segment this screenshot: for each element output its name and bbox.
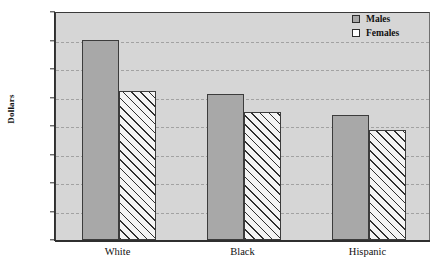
legend-label-males: Males bbox=[366, 14, 390, 24]
bar-black-males bbox=[207, 94, 244, 240]
bar-black-females bbox=[244, 112, 281, 240]
y-axis-tick-mark bbox=[50, 211, 55, 212]
bar-white-females bbox=[119, 91, 156, 240]
legend-label-females: Females bbox=[366, 28, 399, 38]
y-axis-tick-mark bbox=[50, 182, 55, 183]
plot-area bbox=[55, 12, 430, 240]
x-axis-line bbox=[55, 240, 430, 242]
legend: Males Females bbox=[352, 14, 399, 38]
y-axis-tick-mark bbox=[50, 125, 55, 126]
bar-chart: Dollars 0100200300400500600700800 WhiteB… bbox=[0, 0, 441, 268]
y-axis-tick-mark bbox=[50, 97, 55, 98]
y-axis-tick-mark bbox=[50, 11, 55, 12]
bar-hispanic-females bbox=[369, 130, 406, 240]
bar-hispanic-males bbox=[332, 115, 369, 240]
bar-white-males bbox=[82, 40, 119, 240]
y-axis-tick-mark bbox=[50, 40, 55, 41]
legend-item-females[interactable]: Females bbox=[352, 28, 399, 38]
y-axis-title: Dollars bbox=[6, 77, 16, 141]
legend-swatch-females-icon bbox=[352, 29, 360, 37]
chart-title-clipped bbox=[0, 0, 441, 6]
y-axis-tick-mark bbox=[50, 239, 55, 240]
x-axis-label-white: White bbox=[105, 246, 131, 257]
x-axis-label-black: Black bbox=[230, 246, 255, 257]
y-axis-tick-mark bbox=[50, 68, 55, 69]
x-axis-label-hispanic: Hispanic bbox=[349, 246, 386, 257]
legend-item-males[interactable]: Males bbox=[352, 14, 399, 24]
y-axis-tick-mark bbox=[50, 154, 55, 155]
legend-swatch-males-icon bbox=[352, 15, 360, 23]
